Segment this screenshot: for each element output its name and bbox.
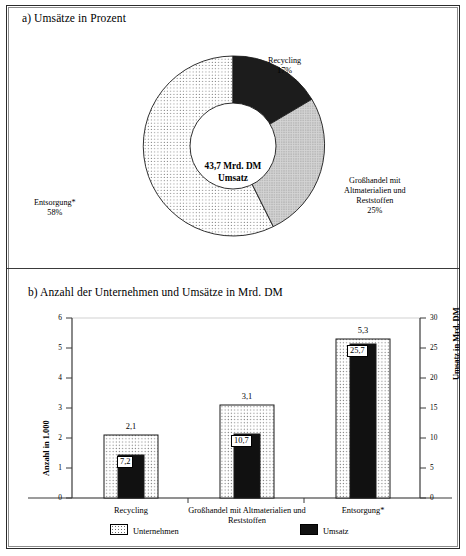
legend-label-umsatz: Umsatz — [323, 527, 349, 536]
right-tick-5: 5 — [430, 463, 446, 472]
right-tick-30: 30 — [430, 313, 446, 322]
pie-label-grosshandel-l1: Großhandel mit — [349, 176, 401, 185]
bar-chart: Anzahl in 1.000 Umsatz in Mrd. DM 6 5 4 … — [0, 300, 466, 556]
left-tick-0: 0 — [48, 493, 62, 502]
bar-umsatz-entsorgung — [350, 344, 376, 498]
section-a-title: a) Umsätze in Prozent — [22, 12, 126, 24]
category-label-grosshandel: Großhandel mit Altmaterialien und Restst… — [165, 506, 329, 526]
donut-chart: Recycling 17% Großhandel mit Altmaterial… — [0, 26, 466, 266]
value-unternehmen-entsorgung: 5,3 — [343, 326, 383, 335]
right-tick-15: 15 — [430, 403, 446, 412]
category-label-entsorgung: Entsorgung* — [323, 506, 403, 516]
left-tick-4: 4 — [48, 373, 62, 382]
right-tick-25: 25 — [430, 343, 446, 352]
donut-center-text: 43,7 Mrd. DM Umsatz — [183, 160, 283, 184]
pie-label-grosshandel: Großhandel mit Altmaterialien und Restst… — [344, 176, 406, 216]
left-tick-6: 6 — [48, 313, 62, 322]
pie-label-recycling: Recycling 17% — [268, 56, 301, 76]
right-tick-20: 20 — [430, 373, 446, 382]
left-tick-1: 1 — [48, 463, 62, 472]
pie-label-grosshandel-l2: Altmaterialien und — [344, 186, 406, 195]
section-b-title: b) Anzahl der Unternehmen und Umsätze in… — [28, 286, 283, 298]
right-tick-10: 10 — [430, 433, 446, 442]
value-umsatz-recycling: 7,2 — [117, 456, 133, 468]
category-label-recycling: Recycling — [91, 506, 171, 516]
right-tick-0: 0 — [430, 493, 446, 502]
legend-label-unternehmen: Unternehmen — [133, 527, 179, 536]
category-label-grosshandel-l1: Großhandel mit Altmaterialien und — [188, 506, 305, 515]
legend-swatch-unternehmen-icon — [110, 524, 128, 535]
value-unternehmen-grosshandel: 3,1 — [227, 392, 267, 401]
pie-label-recycling-name: Recycling — [268, 56, 301, 65]
left-tick-marks — [66, 318, 72, 498]
legend-item-umsatz: Umsatz — [300, 524, 349, 536]
y-axis-right-title: Umsatz in Mrd. DM — [452, 307, 461, 380]
donut-center-caption: Umsatz — [218, 173, 248, 183]
donut-svg — [0, 26, 466, 266]
right-tick-marks — [420, 318, 426, 498]
legend-swatch-umsatz-icon — [300, 524, 318, 535]
left-tick-3: 3 — [48, 403, 62, 412]
value-unternehmen-recycling: 2,1 — [111, 422, 151, 431]
category-tick-marks — [188, 498, 304, 503]
section-divider — [7, 268, 459, 269]
donut-center-value: 43,7 Mrd. DM — [205, 161, 262, 171]
left-tick-5: 5 — [48, 343, 62, 352]
pie-label-entsorgung-pct: 58% — [47, 208, 62, 217]
left-tick-2: 2 — [48, 433, 62, 442]
bar-chart-legend: Unternehmen Umsatz — [0, 524, 466, 544]
pie-label-grosshandel-l3: Reststoffen — [356, 196, 393, 205]
figure-page: a) Umsätze in Prozent — [0, 0, 466, 556]
legend-item-unternehmen: Unternehmen — [110, 524, 179, 536]
value-umsatz-entsorgung: 25,7 — [347, 345, 368, 357]
pie-label-entsorgung: Entsorgung* 58% — [34, 198, 76, 218]
pie-label-entsorgung-name: Entsorgung* — [34, 198, 76, 207]
pie-label-recycling-pct: 17% — [277, 66, 292, 75]
value-umsatz-grosshandel: 10,7 — [231, 435, 252, 447]
pie-label-grosshandel-pct: 25% — [367, 206, 382, 215]
